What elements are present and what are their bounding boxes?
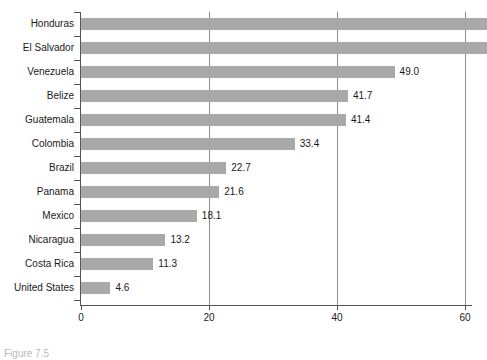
bar-honduras <box>81 18 487 30</box>
bar-value-label: 4.6 <box>115 276 129 300</box>
category-label-united-states: United States <box>0 276 74 300</box>
chart-row: United States4.6 <box>0 276 487 300</box>
chart-row: Belize41.7 <box>0 84 487 108</box>
chart-row: El Salvador66.0 <box>0 36 487 60</box>
y-axis-tick <box>74 60 80 61</box>
x-axis-tick-40 <box>337 305 338 310</box>
chart-row: Costa Rica11.3 <box>0 252 487 276</box>
bar-value-label: 22.7 <box>231 156 250 180</box>
bar-el-salvador <box>81 42 487 54</box>
bar-costa-rica <box>81 258 153 270</box>
x-axis-tick-label: 60 <box>445 312 485 324</box>
x-axis-tick-60 <box>465 305 466 310</box>
figure-container: 020406080Honduras82.1El Salvador66.0Vene… <box>0 0 487 360</box>
bar-value-label: 41.4 <box>351 108 370 132</box>
category-label-belize: Belize <box>0 84 74 108</box>
chart-row: Venezuela49.0 <box>0 60 487 84</box>
y-axis-tick <box>74 204 80 205</box>
x-axis-tick-label: 20 <box>189 312 229 324</box>
y-axis-tick <box>74 108 80 109</box>
category-label-costa-rica: Costa Rica <box>0 252 74 276</box>
y-axis-tick <box>74 276 80 277</box>
category-label-mexico: Mexico <box>0 204 74 228</box>
category-label-nicaragua: Nicaragua <box>0 228 74 252</box>
bar-value-label: 21.6 <box>224 180 243 204</box>
bar-colombia <box>81 138 295 150</box>
bar-value-label: 13.2 <box>170 228 189 252</box>
bar-venezuela <box>81 66 395 78</box>
bar-value-label: 11.3 <box>158 252 177 276</box>
y-axis-tick <box>74 180 80 181</box>
chart-row: Colombia33.4 <box>0 132 487 156</box>
chart-row: Brazil22.7 <box>0 156 487 180</box>
y-axis-tick <box>74 300 80 301</box>
x-axis-line <box>80 305 472 306</box>
bar-value-label: 41.7 <box>353 84 372 108</box>
bar-brazil <box>81 162 226 174</box>
category-label-brazil: Brazil <box>0 156 74 180</box>
bar-chart-plot-area: 020406080Honduras82.1El Salvador66.0Vene… <box>0 0 487 360</box>
category-label-panama: Panama <box>0 180 74 204</box>
bar-value-label: 49.0 <box>400 60 419 84</box>
bar-nicaragua <box>81 234 165 246</box>
chart-row: Mexico18.1 <box>0 204 487 228</box>
y-axis-tick <box>74 132 80 133</box>
chart-row: Nicaragua13.2 <box>0 228 487 252</box>
x-axis-tick-0 <box>81 305 82 310</box>
category-label-el-salvador: El Salvador <box>0 36 74 60</box>
bar-value-label: 33.4 <box>300 132 319 156</box>
bar-panama <box>81 186 219 198</box>
bar-mexico <box>81 210 197 222</box>
y-axis-tick <box>74 252 80 253</box>
category-label-venezuela: Venezuela <box>0 60 74 84</box>
chart-row: Honduras82.1 <box>0 12 487 36</box>
category-label-honduras: Honduras <box>0 12 74 36</box>
x-axis-tick-label: 0 <box>61 312 101 324</box>
category-label-colombia: Colombia <box>0 132 74 156</box>
y-axis-tick <box>74 156 80 157</box>
y-axis-tick <box>74 12 80 13</box>
y-axis-tick <box>74 228 80 229</box>
chart-row: Guatemala41.4 <box>0 108 487 132</box>
chart-row: Panama21.6 <box>0 180 487 204</box>
y-axis-tick <box>74 84 80 85</box>
bar-belize <box>81 90 348 102</box>
bar-united-states <box>81 282 110 294</box>
bar-guatemala <box>81 114 346 126</box>
figure-caption: Figure 7.5 <box>4 348 49 360</box>
category-label-guatemala: Guatemala <box>0 108 74 132</box>
bar-value-label: 18.1 <box>202 204 221 228</box>
x-axis-tick-label: 40 <box>317 312 357 324</box>
x-axis-tick-20 <box>209 305 210 310</box>
y-axis-tick <box>74 36 80 37</box>
